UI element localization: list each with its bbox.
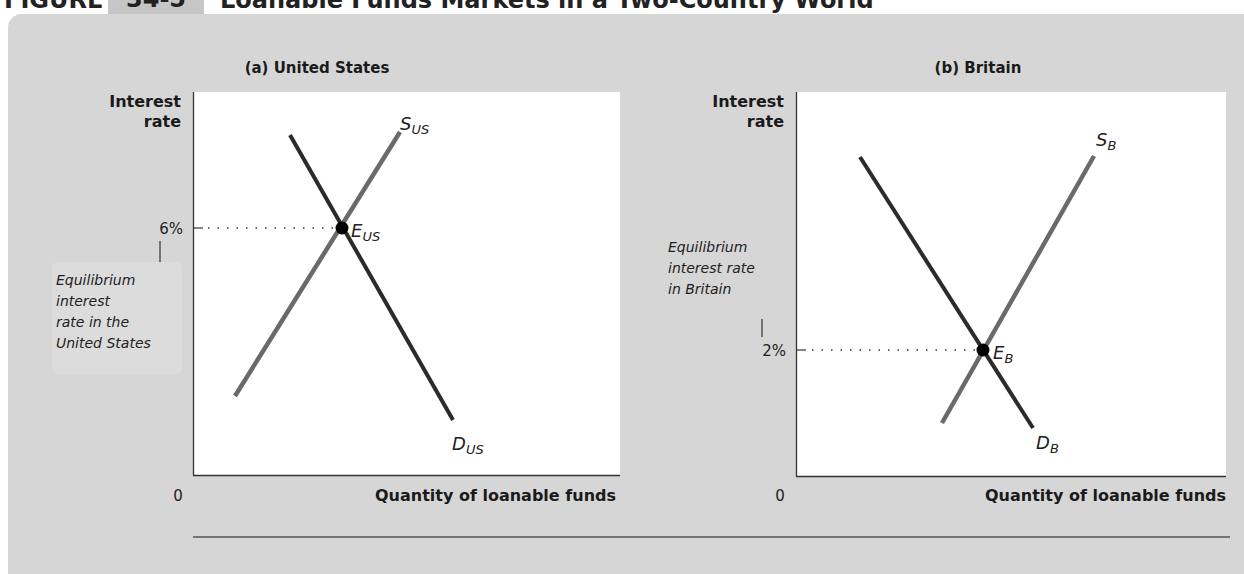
britain-rate-tick-label: 2% — [762, 342, 786, 360]
us-ylabel-line2: rate — [144, 112, 181, 131]
britain-plot-area — [796, 92, 1226, 476]
us-rate-tick-label: 6% — [159, 220, 183, 238]
britain-ylabel-line2: rate — [747, 112, 784, 131]
britain-xlabel: Quantity of loanable funds — [985, 486, 1226, 505]
us-xlabel: Quantity of loanable funds — [375, 486, 616, 505]
us-plot-area — [193, 92, 620, 475]
us-panel-title: (a) United States — [245, 59, 390, 77]
us-equilibrium-point — [336, 222, 349, 235]
britain-panel: (b) Britain Interest rate Quantity of lo… — [668, 59, 1226, 505]
britain-panel-title: (b) Britain — [935, 59, 1022, 77]
us-panel: (a) United States Interest rate Quantity… — [52, 59, 620, 505]
britain-ylabel-line1: Interest — [712, 92, 784, 111]
us-ylabel-line1: Interest — [109, 92, 181, 111]
us-origin-label: 0 — [173, 487, 183, 505]
britain-origin-label: 0 — [775, 487, 785, 505]
britain-equilibrium-point — [977, 344, 990, 357]
britain-annotation: Equilibrium interest rate in Britain — [668, 239, 759, 297]
